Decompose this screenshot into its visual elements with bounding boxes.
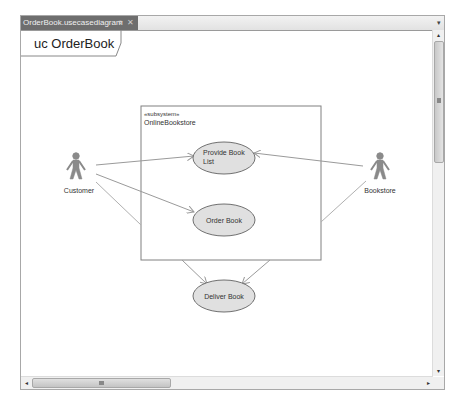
frame-title: uc OrderBook	[34, 36, 115, 51]
subsystem-stereotype: «subsystem»	[144, 111, 180, 117]
diagram-canvas[interactable]: uc OrderBook «subsystem» OnlineBookstore…	[21, 16, 446, 391]
association-subsystem-deliverbook-right[interactable]	[242, 260, 270, 284]
usecase-provide-book-list-label-2: List	[203, 158, 214, 165]
actor-bookstore-icon[interactable]	[371, 153, 389, 179]
grip-icon	[99, 381, 104, 385]
diagram-editor-window: OrderBook.usecasediagram ⌖ ✕ ▾	[20, 15, 445, 390]
vertical-scroll-thumb[interactable]	[434, 41, 444, 163]
horizontal-scroll-thumb[interactable]	[32, 378, 171, 388]
scroll-left-icon[interactable]: ◂	[21, 377, 31, 389]
vertical-scrollbar[interactable]: ▴ ▾	[432, 30, 444, 376]
horizontal-scrollbar[interactable]: ◂ ▸	[21, 376, 433, 389]
scroll-down-icon[interactable]: ▾	[433, 366, 444, 376]
actor-customer-icon[interactable]	[67, 153, 85, 179]
usecase-provide-book-list-label-1: Provide Book	[203, 149, 245, 156]
subsystem-boundary[interactable]	[141, 106, 321, 260]
association-subsystem-deliverbook-left[interactable]	[182, 260, 207, 284]
actor-bookstore-label: Bookstore	[364, 187, 396, 194]
scrollbar-corner	[433, 377, 444, 389]
scroll-up-icon[interactable]: ▴	[433, 30, 444, 40]
actor-customer-label: Customer	[64, 187, 95, 194]
subsystem-name: OnlineBookstore	[144, 119, 196, 126]
scroll-right-icon[interactable]: ▸	[423, 377, 433, 389]
grip-icon	[437, 98, 441, 103]
usecase-deliver-book-label: Deliver Book	[204, 293, 244, 300]
usecase-order-book-label: Order Book	[206, 217, 242, 224]
association-bookstore-ext[interactable]	[321, 181, 366, 222]
